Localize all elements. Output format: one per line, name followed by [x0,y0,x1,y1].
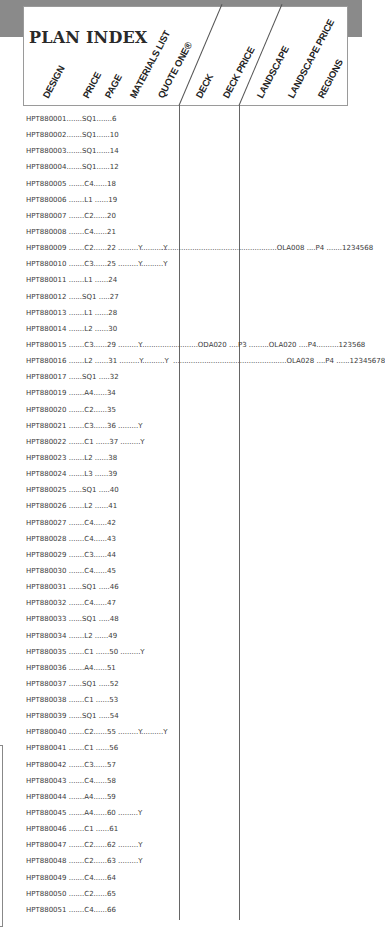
landscape-detail: ........................................… [161,240,373,256]
table-row: HPT880016 .......L2 ......31 .........Y.… [26,353,169,369]
table-row: HPT880003.......SQ1......14 [26,143,169,159]
table-row: HPT880015 .......C3......29 .........Y..… [26,337,169,353]
table-row: HPT880049 .......C4......64 [26,870,169,886]
table-row: HPT880008 .......C4......21 [26,224,169,240]
table-row: HPT880046 .......C1 ......61 [26,821,169,837]
table-row: HPT880025 ......SQ1 .....40 [26,482,169,498]
table-row: HPT880051 .......C4......66 [26,902,169,918]
table-row: HPT880031 ......SQ1 .....46 [26,579,169,595]
page-edge-marker [0,745,3,927]
table-row: HPT880033 ......SQ1 .....48 [26,611,169,627]
table-row: HPT880043 .......C4......58 [26,773,169,789]
table-row: HPT880047 .......C2......62 .........Y [26,837,169,853]
plan-index-list: HPT880001.......SQ1.......6 HPT880002...… [26,111,169,918]
table-row: HPT880012 ......SQ1 .....27 [26,289,169,305]
table-row: HPT880020 .......C2......35 [26,402,169,418]
table-row: HPT880040 .......C2......55 .........Y..… [26,724,169,740]
table-row: HPT880037 ......SQ1 .....52 [26,676,169,692]
table-row: HPT880042 .......C3......57 [26,757,169,773]
deck-landscape-detail: ..........................ODA020 ....P3 … [140,337,365,353]
table-row: HPT880048 .......C2......63 .........Y [26,853,169,869]
table-row: HPT880026 .......L2 ......41 [26,498,169,514]
landscape-detail: ........................................… [173,353,385,369]
table-row: HPT880002.......SQ1......10 [26,127,169,143]
table-row: HPT880011 .......L1 ......24 [26,272,169,288]
table-row: HPT880034 .......L2 ......49 [26,628,169,644]
table-row: HPT880022 .......C1 ......37 .........Y [26,434,169,450]
table-row: HPT880005 .......C4......18 [26,176,169,192]
table-row: HPT880030 .......C4......45 [26,563,169,579]
table-row: HPT880044 .......A4......59 [26,789,169,805]
page-edge-shadow [0,0,24,37]
page-edge-shadow-right [348,0,362,37]
table-row: HPT880017 ......SQ1 .....32 [26,369,169,385]
page-title: PLAN INDEX [29,28,147,47]
table-row: HPT880023 .......L2 ......38 [26,450,169,466]
table-row: HPT880024 .......L3 ......39 [26,466,169,482]
table-row: HPT880039 ......SQ1 .....54 [26,708,169,724]
table-row: HPT880028 .......C4......43 [26,531,169,547]
deck-column-divider [179,105,180,920]
table-row: HPT880007 .......C2......20 [26,208,169,224]
table-row: HPT880004.......SQ1......12 [26,159,169,175]
table-row: HPT880019 .......A4......34 [26,385,169,401]
table-row: HPT880041 .......C1 ......56 [26,740,169,756]
table-row: HPT880006 .......L1 ......19 [26,192,169,208]
table-row: HPT880029 .......C3......44 [26,547,169,563]
table-row: HPT880027 .......C4......42 [26,515,169,531]
table-row: HPT880014 .......L2 ......30 [26,321,169,337]
table-row: HPT880009 .......C2......22 .........Y..… [26,240,169,256]
table-row: HPT880050 .......C2......65 [26,886,169,902]
table-row: HPT880001.......SQ1.......6 [26,111,169,127]
table-row: HPT880021 .......C3......36 .........Y [26,418,169,434]
table-row: HPT880038 .......C1 ......53 [26,692,169,708]
table-row: HPT880036 .......A4......51 [26,660,169,676]
table-row: HPT880045 .......A4......60 .........Y [26,805,169,821]
table-row: HPT880013 .......L1 ......28 [26,305,169,321]
table-row: HPT880035 .......C1 ......50 .........Y [26,644,169,660]
landscape-column-divider [239,105,240,920]
table-row: HPT880032 .......C4......47 [26,595,169,611]
table-row: HPT880010 .......C3......25 .........Y..… [26,256,169,272]
